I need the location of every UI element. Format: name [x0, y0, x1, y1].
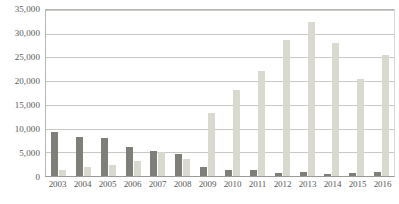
x-tick-label: 2016 [370, 179, 395, 189]
x-tick-label: 2007 [145, 179, 170, 189]
bar [275, 173, 282, 176]
bar [382, 55, 389, 176]
y-tick-label: 35,000 [15, 4, 40, 14]
bar [150, 151, 157, 176]
x-tick-label: 2014 [320, 179, 345, 189]
bar [208, 113, 215, 176]
bar [258, 71, 265, 176]
bar [300, 172, 307, 176]
x-tick-label: 2009 [195, 179, 220, 189]
bar [84, 167, 91, 176]
bar-chart: 35,000 30,000 25,000 20,000 15,000 10,00… [0, 0, 399, 204]
x-tick-label: 2012 [270, 179, 295, 189]
bar-group [121, 10, 146, 176]
bar [200, 167, 207, 176]
x-tick-label: 2015 [345, 179, 370, 189]
bar [126, 147, 133, 176]
y-tick-label: 20,000 [15, 76, 40, 86]
x-tick-label: 2008 [170, 179, 195, 189]
bar [109, 165, 116, 176]
y-tick-label: 0 [35, 172, 40, 182]
bar [76, 137, 83, 176]
bar [283, 40, 290, 176]
bar [51, 132, 58, 176]
y-tick-label: 15,000 [15, 100, 40, 110]
x-tick-label: 2003 [45, 179, 70, 189]
bar-group [96, 10, 121, 176]
x-tick-label: 2006 [120, 179, 145, 189]
bar [225, 170, 232, 176]
bar-group [71, 10, 96, 176]
bar-group [344, 10, 369, 176]
x-tick-label: 2005 [95, 179, 120, 189]
bar-group [270, 10, 295, 176]
bar-group [195, 10, 220, 176]
y-tick-label: 25,000 [15, 52, 40, 62]
bar-group [319, 10, 344, 176]
y-tick-label: 30,000 [15, 28, 40, 38]
x-axis: 2003200420052006200720082009201020112012… [45, 179, 395, 189]
bar-group [220, 10, 245, 176]
bar-group [170, 10, 195, 176]
bar [250, 170, 257, 176]
bar-group [145, 10, 170, 176]
bar-group [369, 10, 394, 176]
x-tick-label: 2013 [295, 179, 320, 189]
bar-group [295, 10, 320, 176]
bar [134, 161, 141, 176]
bar [308, 22, 315, 176]
bar [101, 138, 108, 176]
bar-group [46, 10, 71, 176]
x-tick-label: 2010 [220, 179, 245, 189]
y-axis: 35,000 30,000 25,000 20,000 15,000 10,00… [0, 0, 44, 204]
bar [158, 152, 165, 176]
bar [374, 172, 381, 176]
bar [349, 173, 356, 176]
bar [357, 79, 364, 176]
bars-layer [46, 10, 394, 176]
x-tick-label: 2011 [245, 179, 270, 189]
bar [59, 170, 66, 176]
bar [233, 90, 240, 176]
bar [324, 174, 331, 176]
bar [175, 154, 182, 176]
bar-group [245, 10, 270, 176]
bar [183, 159, 190, 176]
y-tick-label: 5,000 [19, 148, 40, 158]
x-tick-label: 2004 [70, 179, 95, 189]
y-tick-label: 10,000 [15, 124, 40, 134]
bar [332, 43, 339, 176]
plot-area [45, 9, 395, 177]
